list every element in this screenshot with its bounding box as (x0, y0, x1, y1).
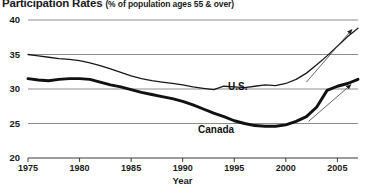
series-label-us: U.S. (228, 81, 247, 92)
x-axis-tick-label: 1995 (217, 163, 251, 173)
y-axis-tick-label: 40 (0, 14, 20, 25)
series-line-us (28, 28, 358, 89)
y-axis-tick-label: 35 (0, 49, 20, 60)
x-axis-title: Year (0, 175, 365, 186)
x-axis-tick-label: 1975 (11, 163, 45, 173)
y-axis-tick-label: 30 (0, 83, 20, 94)
series-label-canada: Canada (198, 124, 234, 135)
plot-area (28, 20, 358, 158)
chart-title: Participation Rates (% of population age… (2, 0, 234, 9)
x-axis-tick-label: 1990 (166, 163, 200, 173)
chart-figure: Participation Rates (% of population age… (0, 0, 365, 193)
trend-arrow-us (306, 30, 351, 82)
chart-title-subtitle: (% of population ages 55 & over) (105, 0, 234, 9)
chart-title-main: Participation Rates (2, 0, 102, 9)
y-axis-tick-label: 25 (0, 118, 20, 129)
chart-canvas (28, 20, 358, 158)
x-axis-tick-label: 2000 (269, 163, 303, 173)
x-axis-tick-label: 1980 (63, 163, 97, 173)
y-axis-tick-label: 20 (0, 152, 20, 163)
x-axis-tick-label: 2005 (320, 163, 354, 173)
x-axis-tick-label: 1985 (114, 163, 148, 173)
series-line-canada (28, 79, 358, 127)
